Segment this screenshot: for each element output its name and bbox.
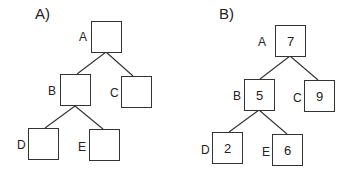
- panel-b-node-c: 9: [304, 80, 335, 112]
- edge-a-be: [75, 106, 103, 129]
- panel-b-node-d: 2: [212, 132, 243, 164]
- panel-b-node-a-label: A: [258, 35, 266, 49]
- panel-a-node-a-label: A: [79, 30, 87, 44]
- panel-a-node-c: [121, 76, 152, 108]
- panel-a-node-b-label: B: [48, 84, 56, 98]
- panel-a-node-a: [91, 21, 122, 53]
- edge-a-ab: [77, 52, 106, 74]
- edge-b-ac: [290, 56, 318, 80]
- edge-a-bd: [45, 106, 75, 128]
- panel-a-node-e-label: E: [78, 140, 86, 154]
- panel-b-node-e-label: E: [262, 145, 270, 159]
- panel-b-node-c-label: C: [293, 91, 302, 105]
- panel-a-node-d-label: D: [17, 138, 26, 152]
- panel-a-node-b: [60, 74, 91, 106]
- panel-b-node-b: 5: [244, 79, 275, 111]
- panel-a-node-e: [89, 129, 120, 161]
- edge-b-ab: [260, 56, 290, 79]
- panel-b-node-b-label: B: [233, 89, 241, 103]
- edge-a-ac: [106, 52, 133, 76]
- panel-a-node-c-label: C: [110, 86, 119, 100]
- edge-b-be: [259, 110, 287, 134]
- edge-b-bd: [229, 110, 259, 132]
- panel-b-node-e: 6: [272, 134, 303, 166]
- panel-b-label: B): [219, 5, 234, 22]
- panel-b-node-a: 7: [275, 25, 306, 57]
- panel-a-label: A): [35, 5, 50, 22]
- panel-a-node-d: [28, 128, 59, 160]
- panel-b-node-d-label: D: [201, 143, 210, 157]
